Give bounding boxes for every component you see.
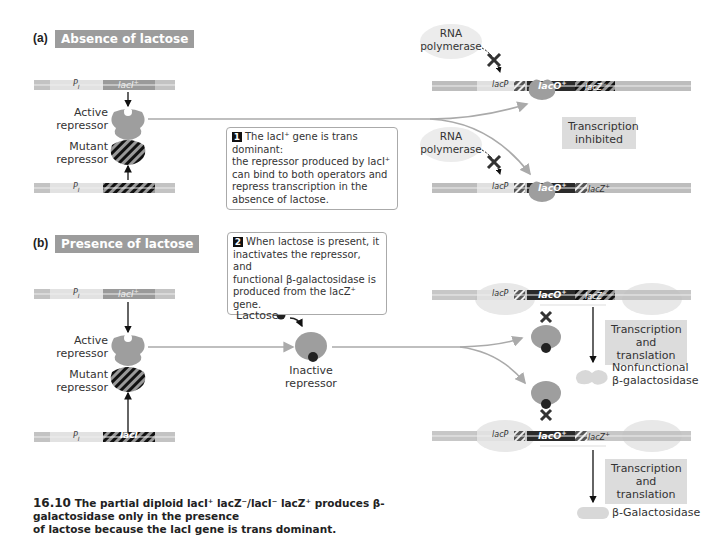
promoter-pi-label: PI bbox=[73, 431, 80, 442]
figure-number: 16.10 bbox=[33, 496, 71, 510]
blocked-x-icon bbox=[488, 54, 500, 66]
galactosidase-label: β-Galactosidase bbox=[612, 506, 700, 519]
promoter-pi-label: PI bbox=[73, 288, 80, 299]
callout-2: 2When lactose is present, it inactivates… bbox=[227, 232, 387, 315]
transcription-inhibited-box: Transcriptioninhibited bbox=[562, 117, 636, 149]
panel-a-letter: (a) bbox=[33, 31, 48, 45]
blocked-x-icon bbox=[541, 410, 551, 420]
promoter-pi-label: PI bbox=[73, 182, 80, 193]
active-repressor-label: Activerepressor bbox=[40, 106, 108, 132]
panel-b-title: Presence of lactose bbox=[55, 235, 199, 253]
laco-label: lacO+ bbox=[538, 79, 566, 91]
laco-label: lacO+ bbox=[538, 288, 566, 300]
laci-plus-label: lacI+ bbox=[118, 287, 139, 299]
mutant-repressor-shape bbox=[111, 140, 146, 165]
panel-b-letter: (b) bbox=[33, 236, 48, 250]
gene-laci-minus-a bbox=[34, 183, 175, 193]
callout-1: 1The lacI⁺ gene is trans dominant: the r… bbox=[226, 127, 398, 210]
blocked-x-icon bbox=[488, 156, 500, 168]
lactose-label: Lactose bbox=[236, 309, 278, 322]
laco-label: lacO+ bbox=[538, 181, 566, 193]
lacz-plus-label: lacZ+ bbox=[588, 430, 610, 442]
figure-caption: 16.10 The partial diploid lacI⁺ lacZ⁻/la… bbox=[33, 497, 453, 536]
lacz-minus-label: lacZ− bbox=[585, 289, 607, 301]
laci-plus-label: lacI+ bbox=[118, 78, 139, 90]
mutant-repressor-label: Mutantrepressor bbox=[40, 140, 108, 166]
functional-protein-shape bbox=[577, 507, 609, 519]
rna-polymerase-1: RNApolymerase bbox=[420, 24, 482, 59]
laci-minus-label: lacI bbox=[120, 430, 138, 440]
nonfunctional-protein-shape bbox=[576, 370, 608, 385]
lacp-label: lacP bbox=[492, 289, 508, 298]
active-repressor-label: Activerepressor bbox=[40, 334, 108, 360]
lacz-plus-label: lacZ+ bbox=[588, 182, 610, 194]
gene-laci-plus-b bbox=[34, 289, 175, 299]
rna-polymerase-2: RNApolymerase bbox=[420, 127, 482, 162]
transcription-translation-box-2: Transcriptionand translation bbox=[605, 459, 687, 504]
lacp-label: lacP bbox=[492, 80, 508, 89]
transcription-translation-box-1: Transcriptionand translation bbox=[605, 320, 687, 365]
panel-a-title: Absence of lactose bbox=[55, 30, 194, 48]
mutant-repressor-label: Mutantrepressor bbox=[40, 368, 108, 394]
nonfunctional-galactosidase-label: Nonfunctionalβ-galactosidase bbox=[612, 361, 699, 387]
inactive-repressor-label: Inactiverepressor bbox=[283, 364, 339, 390]
laco-label: lacO+ bbox=[538, 429, 566, 441]
gene-laci-plus-a bbox=[34, 80, 175, 90]
step-number-2: 2 bbox=[233, 237, 243, 247]
step-number-1: 1 bbox=[232, 132, 242, 142]
lacz-minus-label: lacZ− bbox=[585, 80, 607, 92]
gene-laci-minus-b bbox=[34, 432, 175, 442]
lacp-label: lacP bbox=[492, 182, 508, 191]
lacp-label: lacP bbox=[492, 430, 508, 439]
promoter-pi-label: PI bbox=[73, 79, 80, 90]
blocked-x-icon bbox=[541, 312, 551, 322]
